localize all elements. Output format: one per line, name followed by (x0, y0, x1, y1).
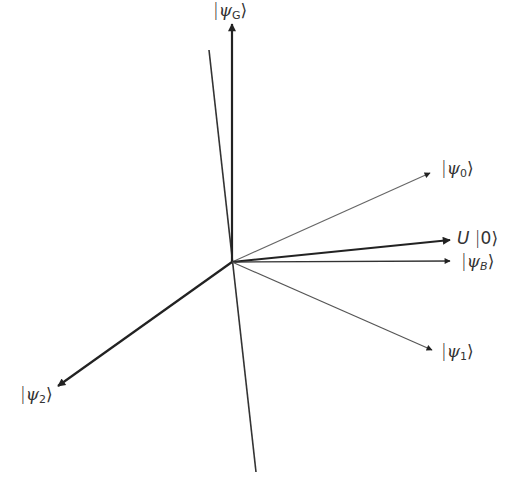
vector-diagram (0, 0, 523, 497)
vector-psi-0 (232, 173, 430, 262)
vector-psi-1 (232, 262, 432, 350)
label-psi-2: |ψ2⟩ (20, 386, 53, 405)
vector-psi-b (232, 261, 450, 262)
vector-psi-2 (58, 262, 232, 386)
label-psi-g: |ψG⟩ (213, 2, 247, 21)
vector-u0 (232, 240, 450, 262)
label-u0: U |0⟩ (457, 230, 498, 247)
label-psi-b: |ψB⟩ (461, 253, 494, 272)
label-psi-1: |ψ1⟩ (441, 343, 474, 362)
label-psi-0: |ψ0⟩ (441, 160, 474, 179)
